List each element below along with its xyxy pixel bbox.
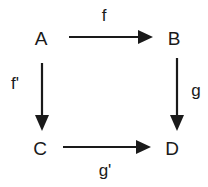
label-f-prime: f'	[11, 74, 19, 93]
arrow-g-prime	[63, 140, 151, 154]
label-g: g	[191, 81, 200, 100]
node-c: C	[33, 138, 47, 159]
arrowhead-icon	[170, 115, 184, 131]
arrowhead-icon	[136, 140, 151, 154]
label-f: f	[102, 6, 107, 25]
arrow-f-prime	[35, 63, 49, 131]
label-g-prime: g'	[99, 161, 112, 180]
node-d: D	[165, 138, 179, 159]
arrow-f	[69, 30, 153, 44]
arrowhead-icon	[35, 115, 49, 131]
arrowhead-icon	[138, 30, 153, 44]
commutative-diagram: A B C D f f' g g'	[0, 0, 208, 187]
node-a: A	[35, 28, 48, 49]
arrow-g	[170, 58, 184, 131]
node-b: B	[168, 28, 181, 49]
